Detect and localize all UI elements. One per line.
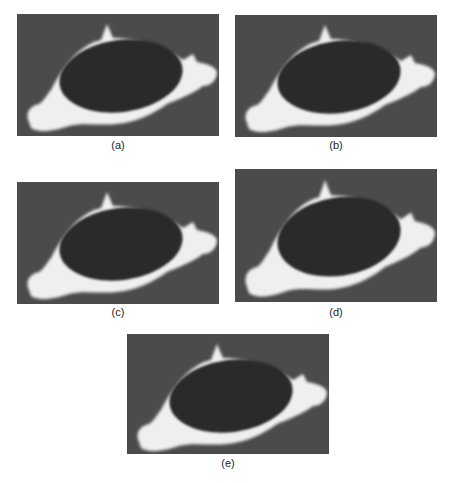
panel-b-image <box>235 15 437 137</box>
panel-e-image <box>127 334 329 454</box>
panel-b-caption: (b) <box>316 139 356 151</box>
panel-d-caption: (d) <box>316 306 356 318</box>
panel-e-caption: (e) <box>208 457 248 469</box>
panel-c-caption: (c) <box>98 306 138 318</box>
panel-c-image <box>17 182 219 304</box>
panel-d-image <box>235 169 437 302</box>
panel-a-image <box>17 14 219 136</box>
panel-a-caption: (a) <box>98 139 138 151</box>
